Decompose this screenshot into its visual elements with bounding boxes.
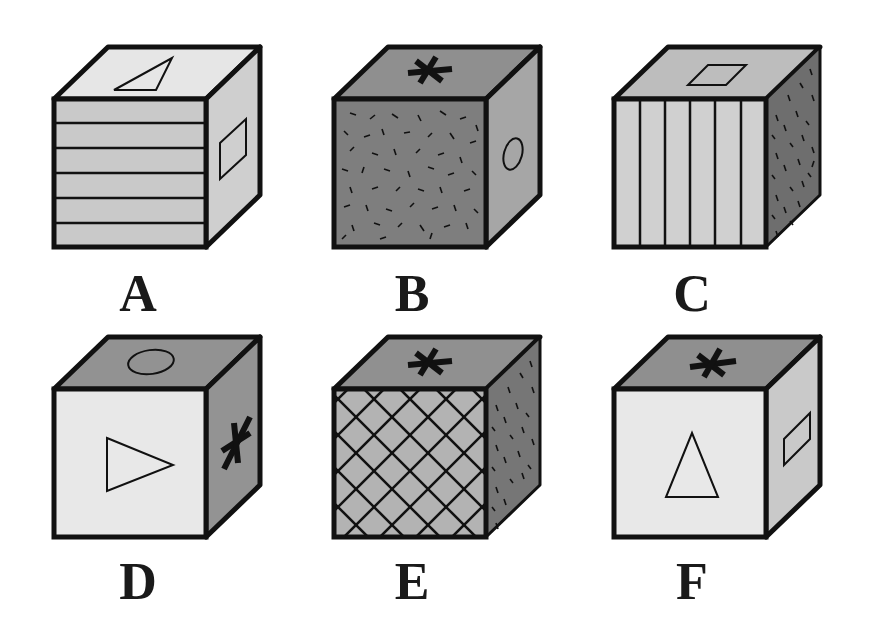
cube-b (320, 35, 560, 260)
cube-label-f: F (652, 556, 732, 608)
cube-label-b: B (372, 268, 452, 320)
cube-d-front-face (54, 389, 206, 537)
cube-e (320, 325, 560, 550)
cube-c (600, 35, 840, 260)
cube-label-c: C (652, 268, 732, 320)
cube-label-d: D (98, 556, 178, 608)
cube-d (40, 325, 280, 550)
cube-label-e: E (372, 556, 452, 608)
cube-f (600, 325, 840, 550)
cube-a (40, 35, 280, 260)
cube-e-front-face (334, 389, 486, 537)
cube-label-a: A (98, 268, 178, 320)
cube-f-front-face (614, 389, 766, 537)
cube-b-front-face (334, 99, 486, 247)
